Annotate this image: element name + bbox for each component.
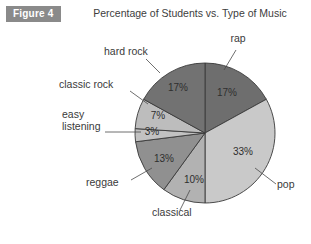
figure-container: Figure 4 Percentage of Students vs. Type… [0,0,311,244]
category-label-pop: pop [277,178,295,190]
category-label-line: rap [230,32,245,44]
category-label-line: pop [277,178,295,190]
category-label-line: hard rock [104,45,149,57]
leader-line-hard-rock [146,59,160,73]
slice-value-hard-rock: 17% [168,82,188,93]
category-label-line: classical [152,206,192,218]
category-label-rap: rap [230,32,245,44]
category-label-easy-listening: easylistening [62,108,101,132]
leader-line-rap [224,50,236,70]
category-label-classical: classical [152,206,192,218]
pie-chart: 17%33%10%13%3%7%17% rappopclassicalregga… [0,0,311,244]
category-label-reggae: reggae [86,176,119,188]
slice-value-reggae: 13% [154,153,174,164]
slice-value-classic-rock: 7% [151,110,166,121]
category-label-line: easy [62,108,85,120]
category-label-hard-rock: hard rock [104,45,149,57]
slice-value-easy-listening: 3% [145,126,160,137]
category-label-classic-rock: classic rock [59,78,114,90]
category-label-line: listening [62,120,101,132]
category-label-line: reggae [86,176,119,188]
slice-value-pop: 33% [233,146,253,157]
slice-value-classical: 10% [184,174,204,185]
slice-value-rap: 17% [217,87,237,98]
category-label-line: classic rock [59,78,114,90]
